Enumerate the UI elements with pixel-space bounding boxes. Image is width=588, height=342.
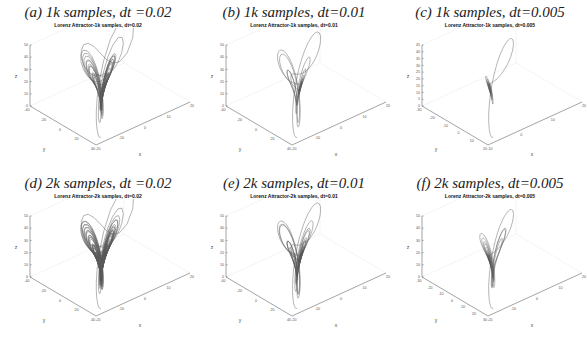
svg-text:10: 10 xyxy=(470,139,474,143)
svg-text:0: 0 xyxy=(536,297,538,301)
svg-text:-20: -20 xyxy=(291,147,296,151)
svg-text:30: 30 xyxy=(220,239,224,243)
svg-text:0: 0 xyxy=(59,299,61,303)
svg-text:50: 50 xyxy=(24,43,28,47)
svg-text:20: 20 xyxy=(483,147,487,151)
svg-text:30: 30 xyxy=(24,239,28,243)
svg-text:20: 20 xyxy=(271,308,275,312)
svg-text:y: y xyxy=(435,146,438,152)
subfigure-a: (a) 1k samples, dt =0.02Lorenz Attractor… xyxy=(0,0,196,171)
svg-text:-20: -20 xyxy=(41,289,46,293)
svg-text:10: 10 xyxy=(24,263,28,267)
trajectory-line xyxy=(278,203,321,309)
svg-text:10: 10 xyxy=(220,92,224,96)
svg-text:30: 30 xyxy=(24,68,28,72)
svg-text:50: 50 xyxy=(24,214,28,218)
svg-text:10: 10 xyxy=(416,263,420,267)
svg-text:10: 10 xyxy=(363,115,367,119)
svg-text:y: y xyxy=(43,317,46,323)
svg-text:-20: -20 xyxy=(427,286,432,290)
svg-text:z: z xyxy=(15,244,18,250)
svg-text:-20: -20 xyxy=(95,147,100,151)
subfigure-caption: (c) 1k samples, dt=0.005 xyxy=(392,4,588,21)
subfigure-caption: (d) 2k samples, dt =0.02 xyxy=(0,175,196,192)
svg-text:20: 20 xyxy=(582,275,586,279)
lorenz-3d-plot: 01020304050z-40-2002040y-20-1001020x xyxy=(0,28,196,171)
svg-text:0: 0 xyxy=(144,126,146,130)
svg-text:-10: -10 xyxy=(119,136,124,140)
svg-text:-10: -10 xyxy=(315,136,320,140)
lorenz-3d-plot: 01020304050z-40-2002040y-20-1001020x xyxy=(196,28,392,171)
svg-text:35: 35 xyxy=(416,57,420,61)
svg-text:z: z xyxy=(15,73,18,79)
svg-text:30: 30 xyxy=(416,64,420,68)
lorenz-3d-plot: 01020304050z-40-2002040y-20-1001020x xyxy=(196,199,392,342)
svg-text:x: x xyxy=(139,151,142,157)
svg-text:40: 40 xyxy=(220,226,224,230)
svg-text:50: 50 xyxy=(416,214,420,218)
svg-text:-10: -10 xyxy=(487,147,492,151)
svg-text:20: 20 xyxy=(386,104,390,108)
svg-text:x: x xyxy=(335,322,338,328)
svg-text:10: 10 xyxy=(167,115,171,119)
trajectory-line xyxy=(81,28,134,137)
svg-text:40: 40 xyxy=(91,147,95,151)
svg-text:20: 20 xyxy=(190,104,194,108)
svg-text:-10: -10 xyxy=(119,307,124,311)
svg-text:40: 40 xyxy=(220,55,224,59)
subfigure-caption: (f) 2k samples, dt=0.005 xyxy=(392,175,588,192)
svg-text:y: y xyxy=(43,146,46,152)
svg-text:20: 20 xyxy=(220,251,224,255)
svg-text:50: 50 xyxy=(220,43,224,47)
svg-text:40: 40 xyxy=(416,50,420,54)
lorenz-3d-plot: 01020304050z-40-2002040y-20-1001020x xyxy=(0,199,196,342)
subfigure-caption: (e) 2k samples, dt=0.01 xyxy=(196,175,392,192)
svg-text:x: x xyxy=(335,151,338,157)
svg-text:30: 30 xyxy=(416,239,420,243)
svg-text:-10: -10 xyxy=(443,124,448,128)
svg-text:-20: -20 xyxy=(430,116,435,120)
svg-text:40: 40 xyxy=(24,226,28,230)
svg-text:40: 40 xyxy=(287,318,291,322)
svg-text:20: 20 xyxy=(416,251,420,255)
trajectory-line xyxy=(278,32,321,138)
svg-text:-30: -30 xyxy=(416,279,421,283)
subfigure-caption: (a) 1k samples, dt =0.02 xyxy=(0,4,196,21)
svg-text:20: 20 xyxy=(416,77,420,81)
trajectory-line xyxy=(81,199,134,309)
svg-text:20: 20 xyxy=(75,308,79,312)
svg-text:z: z xyxy=(407,73,410,79)
svg-text:-20: -20 xyxy=(95,318,100,322)
svg-text:10: 10 xyxy=(363,286,367,290)
svg-text:10: 10 xyxy=(167,286,171,290)
svg-text:20: 20 xyxy=(24,251,28,255)
subfigure-f: (f) 2k samples, dt=0.005Lorenz Attractor… xyxy=(392,171,588,342)
svg-text:30: 30 xyxy=(220,68,224,72)
svg-text:10: 10 xyxy=(551,118,555,122)
svg-text:0: 0 xyxy=(451,299,453,303)
svg-text:10: 10 xyxy=(24,92,28,96)
svg-text:30: 30 xyxy=(483,318,487,322)
trajectory-line xyxy=(480,210,514,309)
svg-text:20: 20 xyxy=(271,137,275,141)
svg-text:y: y xyxy=(239,146,242,152)
svg-text:40: 40 xyxy=(287,147,291,151)
subfigure-c: (c) 1k samples, dt=0.005Lorenz Attractor… xyxy=(392,0,588,171)
svg-text:40: 40 xyxy=(416,226,420,230)
subfigure-d: (d) 2k samples, dt =0.02Lorenz Attractor… xyxy=(0,171,196,342)
svg-text:50: 50 xyxy=(220,214,224,218)
svg-text:45: 45 xyxy=(416,43,420,47)
svg-text:x: x xyxy=(531,151,534,157)
svg-text:0: 0 xyxy=(255,299,257,303)
svg-text:-10: -10 xyxy=(438,292,443,296)
svg-text:20: 20 xyxy=(24,80,28,84)
svg-text:-40: -40 xyxy=(220,279,225,283)
svg-text:40: 40 xyxy=(91,318,95,322)
svg-text:-10: -10 xyxy=(315,307,320,311)
svg-text:-10: -10 xyxy=(511,307,516,311)
svg-text:x: x xyxy=(139,322,142,328)
subfigure-caption: (b) 1k samples, dt=0.01 xyxy=(196,4,392,21)
svg-text:20: 20 xyxy=(220,80,224,84)
svg-text:0: 0 xyxy=(458,131,460,135)
svg-text:20: 20 xyxy=(472,312,476,316)
